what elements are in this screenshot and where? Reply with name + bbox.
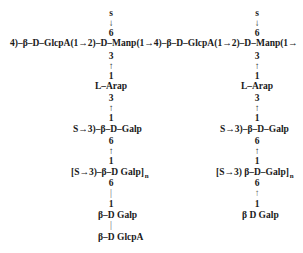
right-sulfated-galactose: S→3)–β–D–Galp <box>220 124 289 135</box>
left-link-1b: 1 <box>109 113 114 124</box>
left-bond-line: | <box>110 188 112 199</box>
right-link-1b: 1 <box>255 113 260 124</box>
main-backbone-chain: 4)–β–D–GlcpA(1→2)–D–Manp(1→4)–β–D–GlcpA(… <box>10 38 298 49</box>
left-arabinose: L–Arap <box>95 81 127 92</box>
right-link-1d: 1 <box>255 199 260 210</box>
left-link-1d: 1 <box>109 199 114 210</box>
left-sulfated-galactose: S→3)–β–D–Galp <box>73 124 142 135</box>
right-link-1c: 1 <box>255 156 260 167</box>
right-arabinose: L–Arap <box>241 81 273 92</box>
left-terminal-galactose: β–D Galp <box>98 210 137 221</box>
right-terminal-galactose: β D Galp <box>242 210 279 221</box>
right-up-arrow-4: ↑ <box>255 188 260 199</box>
left-terminal-glucuronic-acid: β–D GlcpA <box>98 232 143 243</box>
left-link-1c: 1 <box>109 156 114 167</box>
left-bond-line-2: | <box>110 220 112 231</box>
